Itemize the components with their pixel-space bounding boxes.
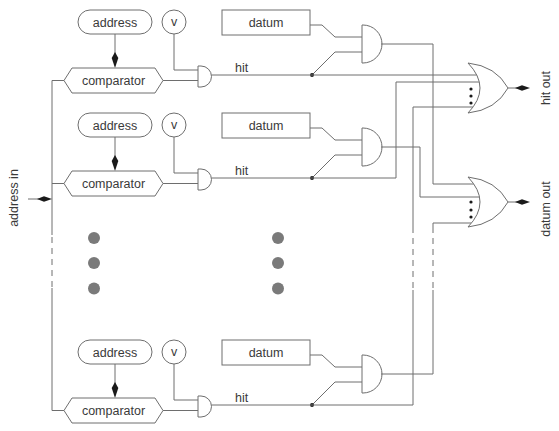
hit-signal-label: hit bbox=[235, 391, 249, 405]
datum-register: datum bbox=[222, 340, 310, 365]
and-gate-hit bbox=[198, 66, 211, 87]
cache-row-n: address v datum comparator hit bbox=[52, 340, 382, 423]
arrow-down-icon bbox=[112, 52, 119, 68]
valid-bit-label: v bbox=[171, 118, 178, 132]
valid-bit: v bbox=[162, 113, 186, 137]
valid-bit-label: v bbox=[171, 15, 178, 29]
address-tag: address bbox=[78, 340, 152, 364]
arrow-right-icon bbox=[515, 85, 530, 90]
and-gate-datum bbox=[362, 128, 382, 166]
associative-cache-diagram: address in address v datum comparator hi… bbox=[0, 0, 559, 431]
comparator: comparator bbox=[64, 398, 163, 423]
and-gate-hit bbox=[198, 396, 211, 417]
address-in-label: address in bbox=[7, 169, 21, 227]
datum-register-label: datum bbox=[249, 119, 284, 133]
valid-bit: v bbox=[162, 340, 186, 364]
hit-signal-label: hit bbox=[235, 164, 249, 178]
valid-bit-label: v bbox=[171, 345, 178, 359]
and-gate-datum bbox=[362, 355, 382, 393]
arrow-right-icon bbox=[37, 196, 52, 201]
ellipsis-left bbox=[88, 232, 100, 295]
cache-row-1: address v datum comparator hit bbox=[52, 10, 382, 93]
datum-out-label: datum out bbox=[539, 181, 553, 237]
and-gate-datum bbox=[362, 25, 382, 63]
hit-signal-label: hit bbox=[235, 61, 249, 75]
datum-register-label: datum bbox=[249, 16, 284, 30]
comparator: comparator bbox=[64, 68, 163, 93]
address-tag: address bbox=[78, 113, 152, 137]
arrow-down-icon bbox=[112, 382, 119, 398]
arrow-right-icon bbox=[515, 199, 530, 204]
or-gate-datum: datum out bbox=[468, 177, 553, 237]
valid-bit: v bbox=[162, 10, 186, 34]
hit-out-label: hit out bbox=[539, 70, 553, 105]
arrow-down-icon bbox=[112, 155, 119, 171]
comparator-label: comparator bbox=[82, 74, 145, 88]
and-gate-hit bbox=[198, 169, 211, 190]
address-tag: address bbox=[78, 10, 152, 34]
datum-register: datum bbox=[222, 10, 310, 35]
address-tag-label: address bbox=[93, 346, 137, 360]
address-input-bus: address in bbox=[7, 81, 52, 411]
comparator: comparator bbox=[64, 171, 163, 196]
or-gate-hit: hit out bbox=[468, 63, 553, 113]
comparator-label: comparator bbox=[82, 404, 145, 418]
ellipsis-right bbox=[272, 232, 284, 295]
address-tag-label: address bbox=[93, 16, 137, 30]
datum-register: datum bbox=[222, 113, 310, 138]
cache-row-2: address v datum comparator hit bbox=[52, 113, 382, 196]
comparator-label: comparator bbox=[82, 177, 145, 191]
address-tag-label: address bbox=[93, 119, 137, 133]
datum-register-label: datum bbox=[249, 346, 284, 360]
